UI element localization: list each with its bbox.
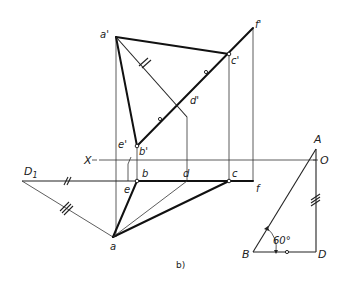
line-a-d-prime [116,37,187,117]
label-f-prime: f' [255,19,261,30]
projector-e [128,157,131,181]
tick-mark [142,60,151,68]
x-o-axis: X O [83,154,329,167]
midpoint-mark [204,70,207,73]
label-e-prime: e' [118,139,127,150]
label-D: D [318,248,326,261]
diagram-svg: X O a' c' f' d' e' b' [0,0,342,287]
label-f: f [256,183,261,194]
line-b-f-prime [137,28,253,146]
top-view: D1 b d c f e a [22,165,261,252]
axis-label-x: X [83,154,92,167]
label-d1-main: D [24,165,32,178]
edge-a-c-prime [116,37,229,54]
label-b-prime: b' [139,146,148,157]
label-b: b [142,168,148,179]
point-c [227,179,231,183]
true-length-triangle: A B D 60° [242,133,326,261]
edge-a-c [113,181,229,237]
label-a-prime: a' [100,29,109,40]
label-d: d [183,168,190,179]
edge-a-b-prime [116,37,137,146]
label-d1: D1 [24,165,38,180]
label-d1-subscript: 1 [32,171,37,180]
tick-mark [60,202,69,211]
front-view: a' c' f' d' e' b' [100,19,261,157]
figure-caption: b) [176,260,185,270]
label-B: B [242,248,250,261]
label-A: A [313,133,322,146]
midpoint-mark [158,117,161,120]
midpoint-mark [285,250,288,253]
line-d1-a [22,181,113,237]
angle-label: 60° [273,235,291,246]
tick-mark [62,204,71,213]
point-b [135,179,139,183]
axis-label-o: O [320,154,329,167]
label-a: a [110,241,116,252]
tick-mark [139,58,148,66]
label-e: e [124,184,130,195]
projection-diagram: X O a' c' f' d' e' b' [0,0,342,287]
label-c: c [232,168,238,179]
label-d-prime: d' [190,95,199,106]
label-c-prime: c' [231,55,239,66]
